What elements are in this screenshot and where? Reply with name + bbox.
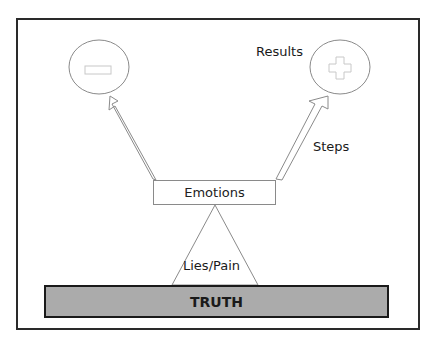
lies-pain-label: Lies/Pain bbox=[183, 258, 240, 273]
truth-bar: TRUTH bbox=[44, 285, 389, 318]
steps-label: Steps bbox=[313, 139, 349, 154]
negative-circle bbox=[69, 40, 129, 94]
emotions-box: Emotions bbox=[153, 180, 276, 205]
positive-circle bbox=[310, 40, 370, 94]
results-label: Results bbox=[256, 44, 303, 59]
